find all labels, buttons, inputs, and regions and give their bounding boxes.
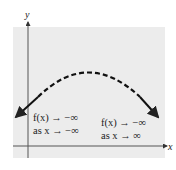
graph-panel bbox=[13, 27, 165, 158]
end-behavior-diagram: y x f(x) → −∞ as x → −∞ f(x) → −∞ as x →… bbox=[0, 0, 176, 170]
x-axis-label: x bbox=[167, 141, 173, 152]
y-axis-label: y bbox=[24, 9, 30, 20]
left-annotation-line1: f(x) → −∞ bbox=[33, 112, 78, 124]
left-annotation-line2: as x → −∞ bbox=[33, 125, 79, 136]
right-annotation-line2: as x → ∞ bbox=[101, 130, 141, 141]
right-annotation-line1: f(x) → −∞ bbox=[101, 117, 146, 129]
